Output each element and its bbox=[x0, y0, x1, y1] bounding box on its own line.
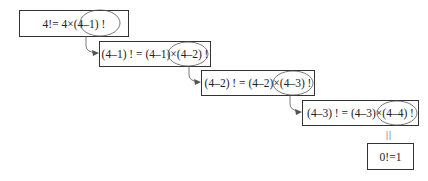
base-case-box: 0!=1 bbox=[367, 143, 414, 170]
arrowhead-icon bbox=[92, 50, 99, 56]
arrowhead-icon bbox=[194, 79, 201, 85]
step-4-box: (4–3) ! = (4–3)×(4–4) ! bbox=[302, 100, 419, 126]
step-1-text: 4!= 4×(4–1) ! bbox=[43, 18, 106, 30]
arrowhead-icon bbox=[295, 109, 302, 115]
arrow-1-to-2 bbox=[86, 36, 97, 53]
step-2-box: (4–1) ! = (4–1)×(4–2) ! bbox=[99, 41, 211, 67]
arrow-2-to-3 bbox=[189, 66, 199, 82]
base-case-text: 0!=1 bbox=[380, 151, 402, 163]
step-3-text: (4–2) ! = (4–2)×(4–3) ! bbox=[205, 77, 312, 89]
step-1-box: 4!= 4×(4–1) ! bbox=[19, 10, 129, 37]
step-3-box: (4–2) ! = (4–2)×(4–3) ! bbox=[201, 70, 315, 96]
step-2-text: (4–1) ! = (4–1)×(4–2) ! bbox=[102, 48, 209, 60]
step-4-text: (4–3) ! = (4–3)×(4–4) ! bbox=[307, 107, 414, 119]
arrow-3-to-4 bbox=[290, 95, 300, 112]
equals-connector: || bbox=[386, 129, 392, 140]
